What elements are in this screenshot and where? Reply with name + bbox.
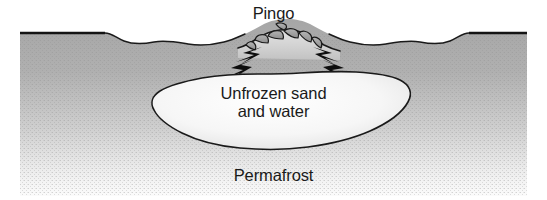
- unfrozen-lens-label-line2: and water: [0, 102, 547, 120]
- unfrozen-lens-label-line1: Unfrozen sand: [220, 84, 326, 102]
- unfrozen-lens-label: Unfrozen sand and water: [0, 84, 547, 121]
- permafrost-label: Permafrost: [0, 166, 547, 184]
- page-title: Pingo: [0, 4, 547, 22]
- pingo-cross-section-diagram: Pingo Unfrozen sand and water Permafrost: [0, 0, 547, 200]
